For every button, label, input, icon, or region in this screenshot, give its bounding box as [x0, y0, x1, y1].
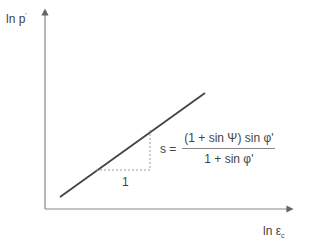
y-axis-label: ln p' — [6, 12, 27, 26]
formula-denominator: 1 + sin φ' — [204, 149, 253, 166]
formula-fraction: (1 + sin Ψ) sin φ' 1 + sin φ' — [182, 131, 275, 166]
y-axis-label-prime: ' — [25, 12, 26, 19]
x-axis-label-text: ln ε — [263, 224, 281, 238]
slope-formula: s = (1 + sin Ψ) sin φ' 1 + sin φ' — [160, 131, 275, 166]
y-axis-label-text: ln p — [6, 12, 25, 26]
formula-numerator: (1 + sin Ψ) sin φ' — [182, 131, 275, 149]
x-axis-label-subscript: c — [281, 232, 285, 239]
slope-run-label: 1 — [122, 175, 129, 189]
x-axis-label: ln εc — [263, 224, 285, 239]
diagram-canvas — [0, 0, 310, 246]
formula-lhs: s = — [160, 142, 176, 156]
